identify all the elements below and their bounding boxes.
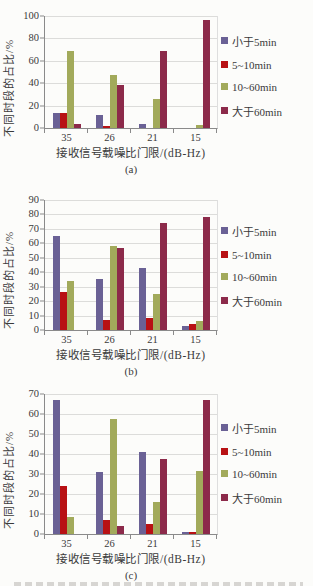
x-tick-mark (216, 331, 217, 335)
y-axis-title-column: 不同时段的占比/% (0, 200, 16, 377)
legend-item-5~10min: 5~10min (221, 59, 313, 71)
x-tick-mark (87, 535, 88, 539)
legend-item-大于60min: 大于60min (221, 103, 313, 119)
y-tick-label: 60 (29, 409, 40, 419)
x-tick-mark (216, 129, 217, 133)
bar-5~10min-35 (60, 486, 67, 534)
legend-label: 大于60min (232, 103, 282, 119)
x-tick-label: 35 (61, 334, 72, 345)
bar-10~60min-26 (110, 419, 117, 534)
legend-label: 5~10min (232, 446, 272, 458)
x-tick-mark (173, 129, 174, 133)
bar-10~60min-26 (110, 246, 117, 330)
x-axis-title: 接收信号载噪比门限/(dB-Hz) (45, 346, 217, 362)
bar-小于5min-26 (96, 115, 103, 128)
legend-swatch (221, 470, 228, 477)
bar-5~10min-21 (146, 318, 153, 330)
bar-group-35 (53, 200, 81, 330)
legend-item-小于5min: 小于5min (221, 33, 313, 49)
bar-5~10min-21 (146, 524, 153, 534)
legend-label: 小于5min (232, 33, 277, 49)
bar-group-15 (182, 16, 210, 128)
x-tick-label: 15 (190, 132, 201, 143)
bar-小于5min-26 (96, 279, 103, 330)
x-axis-title: 接收信号载噪比门限/(dB-Hz) (45, 144, 217, 160)
plot-area-a (44, 16, 218, 129)
y-tick-label: 50 (29, 429, 40, 439)
legend-item-10~60min: 10~60min (221, 271, 313, 283)
chart-c: 不同时段的占比/% 010203040506070 35262115 接收信号载… (0, 384, 313, 582)
legend-label: 小于5min (232, 223, 277, 239)
bar-小于5min-26 (96, 472, 103, 534)
y-tick-label: 50 (29, 253, 40, 263)
x-tick-mark (87, 129, 88, 133)
legend-label: 5~10min (232, 59, 272, 71)
y-tick-label: 30 (29, 282, 40, 292)
bar-大于60min-26 (117, 85, 124, 128)
subplot-label-a: (a) (45, 163, 217, 175)
legend-label: 小于5min (232, 420, 277, 436)
bar-小于5min-35 (53, 113, 60, 128)
bar-大于60min-26 (117, 248, 124, 330)
y-axis-title: 不同时段的占比/% (0, 431, 16, 529)
bar-group-15 (182, 200, 210, 330)
legend-item-10~60min: 10~60min (221, 468, 313, 480)
legend-swatch (221, 107, 228, 114)
y-axis-title-column: 不同时段的占比/% (0, 16, 16, 175)
bar-group-26 (96, 200, 124, 330)
y-tick-label: 40 (29, 267, 40, 277)
bar-大于60min-15 (203, 217, 210, 330)
legend-item-小于5min: 小于5min (221, 420, 313, 436)
y-tick-label: 40 (29, 78, 40, 88)
legend-item-5~10min: 5~10min (221, 446, 313, 458)
bar-10~60min-21 (153, 502, 160, 534)
y-tick-label: 40 (29, 449, 40, 459)
x-tick-mark (216, 535, 217, 539)
legend-swatch (221, 251, 228, 258)
x-tick-mark (44, 331, 45, 335)
legend-swatch (221, 297, 228, 304)
legend-item-5~10min: 5~10min (221, 249, 313, 261)
y-tick-label: 10 (29, 509, 40, 519)
legend-label: 5~10min (232, 249, 272, 261)
y-axis-ticks: 010203040506070 (16, 394, 44, 534)
y-tick-label: 0 (34, 325, 39, 335)
bar-5~10min-26 (103, 126, 110, 128)
legend-label: 10~60min (232, 81, 277, 93)
legend-item-小于5min: 小于5min (221, 223, 313, 239)
bar-大于60min-15 (203, 400, 210, 534)
legend-item-大于60min: 大于60min (221, 293, 313, 309)
bar-大于60min-26 (117, 526, 124, 534)
bar-5~10min-15 (189, 324, 196, 330)
x-tick-label: 21 (147, 334, 158, 345)
subplot-label-c: (c) (45, 569, 217, 581)
cropped-caption-text (14, 582, 303, 586)
bar-5~10min-26 (103, 320, 110, 330)
bar-5~10min-26 (103, 520, 110, 534)
y-tick-label: 60 (29, 56, 40, 66)
legend-c: 小于5min5~10min10~60min大于60min (218, 394, 313, 581)
x-tick-mark (173, 535, 174, 539)
x-tick-mark (130, 331, 131, 335)
x-tick-mark (130, 129, 131, 133)
chart-b: 不同时段的占比/% 0102030405060708090 35262115 接… (0, 186, 313, 384)
bar-group-26 (96, 16, 124, 128)
x-tick-label: 26 (104, 132, 115, 143)
bar-group-21 (139, 394, 167, 534)
bar-group-35 (53, 16, 81, 128)
bar-大于60min-21 (160, 51, 167, 128)
bar-小于5min-21 (139, 452, 146, 534)
y-tick-label: 20 (29, 489, 40, 499)
x-tick-label: 26 (104, 334, 115, 345)
y-tick-label: 70 (29, 389, 40, 399)
y-tick-label: 100 (23, 11, 39, 21)
bar-大于60min-21 (160, 459, 167, 534)
legend-swatch (221, 227, 228, 234)
bar-group-21 (139, 200, 167, 330)
legend-item-大于60min: 大于60min (221, 490, 313, 506)
legend-swatch (221, 83, 228, 90)
legend-swatch (221, 448, 228, 455)
bar-10~60min-21 (153, 99, 160, 128)
x-tick-label: 35 (61, 132, 72, 143)
chart-a: 不同时段的占比/% 020406080100 35262115 接收信号载噪比门… (0, 0, 313, 186)
